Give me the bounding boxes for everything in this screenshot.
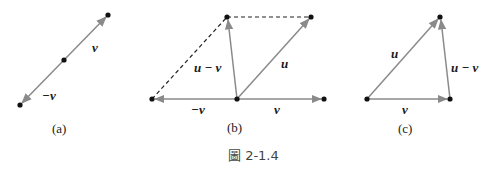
panel-a: v −v (a) [17, 12, 110, 136]
point [321, 96, 326, 101]
panel-b: u − v u −v v (b) [149, 14, 326, 135]
point [61, 57, 66, 62]
panel-label-a: (a) [52, 121, 66, 136]
point [437, 14, 442, 19]
point [224, 14, 229, 19]
label-neg-v: −v [191, 102, 205, 117]
label-v: v [92, 40, 98, 55]
vector-u [367, 19, 438, 99]
panel-c: u u − v v (c) [364, 14, 478, 136]
label-u-minus-v: u − v [451, 60, 479, 75]
panel-label-b: (b) [227, 120, 242, 135]
point [105, 12, 110, 17]
label-u: u [281, 56, 288, 71]
figure-caption: 圖 2-1.4 [228, 148, 279, 163]
vector-v [64, 17, 106, 60]
point [149, 96, 154, 101]
point [447, 96, 452, 101]
label-u: u [391, 46, 398, 61]
vector-u [237, 19, 309, 99]
label-neg-v: −v [42, 88, 56, 103]
point [364, 96, 369, 101]
vector-u-minus-v [441, 20, 450, 99]
dashed-line [152, 17, 227, 99]
vector-u-minus-v [228, 20, 237, 99]
point [234, 96, 239, 101]
point [308, 14, 313, 19]
vector-diagram: v −v (a) u − v u −v v (b) u u − v v (c) … [0, 0, 497, 170]
label-v: v [402, 102, 408, 117]
point [17, 102, 22, 107]
label-u-minus-v: u − v [194, 60, 222, 75]
panel-label-c: (c) [398, 121, 412, 136]
label-v: v [274, 102, 280, 117]
